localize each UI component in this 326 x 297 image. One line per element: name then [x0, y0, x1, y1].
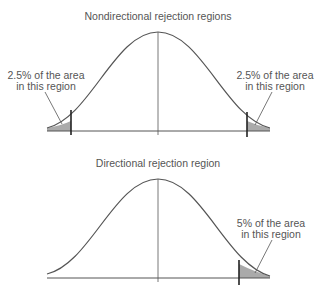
top-right-annotation: 2.5% of the area in this region	[234, 70, 316, 92]
top-left-pointer	[45, 92, 62, 124]
bottom-right-pointer	[255, 240, 272, 273]
bottom-right-annotation-line2: in this region	[232, 229, 310, 240]
bottom-right-annotation: 5% of the area in this region	[232, 218, 310, 240]
top-right-shaded-tail	[247, 121, 270, 131]
bottom-right-shaded-tail	[239, 264, 270, 278]
normal-curves-diagram	[0, 0, 326, 297]
top-panel-title: Nondirectional rejection regions	[0, 10, 316, 22]
top-right-pointer	[255, 92, 272, 125]
top-left-annotation-line2: in this region	[6, 81, 86, 92]
top-right-annotation-line2: in this region	[234, 81, 316, 92]
bottom-panel-title: Directional rejection region	[0, 157, 316, 169]
top-left-annotation: 2.5% of the area in this region	[6, 70, 86, 92]
